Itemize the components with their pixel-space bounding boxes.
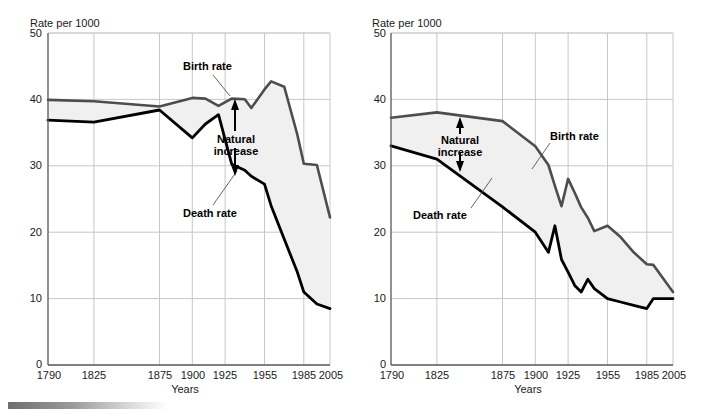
x-tick-2005: 2005: [315, 369, 347, 381]
x-tick-1955: 1955: [249, 369, 281, 381]
x-axis-title: Years: [498, 383, 558, 395]
x-tick-1875: 1875: [487, 369, 519, 381]
decorative-gradient-bar: [8, 402, 168, 409]
chart-panel-developed: Rate per 1000 Developed countries 50 40 …: [354, 0, 707, 414]
chart-panel-developing: Rate per 1000 Developing countries 50 40…: [0, 0, 353, 414]
x-tick-1955: 1955: [592, 369, 624, 381]
x-tick-1875: 1875: [144, 369, 176, 381]
plot-area-developing: [0, 0, 353, 414]
x-tick-2005: 2005: [658, 369, 690, 381]
x-tick-1900: 1900: [520, 369, 552, 381]
annotation-natural-increase-line1: Natural: [205, 133, 267, 145]
annotation-natural-increase-line2: increase: [205, 145, 267, 157]
x-tick-1790: 1790: [33, 369, 65, 381]
x-tick-1790: 1790: [376, 369, 408, 381]
annotation-birth-rate: Birth rate: [550, 130, 599, 142]
x-tick-1900: 1900: [177, 369, 209, 381]
annotation-death-rate: Death rate: [183, 207, 237, 219]
x-tick-1825: 1825: [78, 369, 110, 381]
x-tick-1825: 1825: [421, 369, 453, 381]
annotation-natural-increase-line1: Natural: [429, 134, 491, 146]
annotation-death-rate: Death rate: [413, 209, 467, 221]
x-tick-1925: 1925: [552, 369, 584, 381]
annotation-birth-rate: Birth rate: [183, 60, 232, 72]
plot-area-developed: [354, 0, 707, 414]
x-tick-1925: 1925: [209, 369, 241, 381]
x-axis-title: Years: [155, 383, 215, 395]
annotation-natural-increase-line2: increase: [429, 146, 491, 158]
